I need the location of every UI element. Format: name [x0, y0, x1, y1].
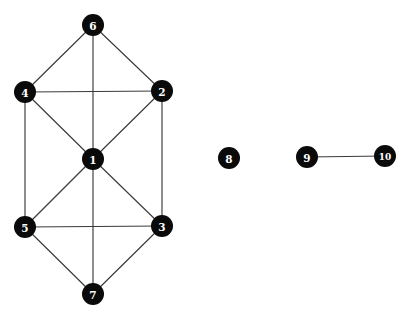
graph-edge-1-5: [25, 159, 93, 227]
graph-node-label-9: 9: [303, 152, 310, 164]
graph-edge-2-1: [93, 91, 162, 159]
graph-node-10[interactable]: 10: [374, 145, 396, 167]
node-layer: 12345678910: [14, 14, 396, 305]
graph-canvas: 12345678910: [0, 0, 409, 319]
graph-node-label-3: 3: [158, 221, 165, 233]
graph-node-2[interactable]: 2: [151, 80, 173, 102]
edge-layer: [25, 25, 385, 294]
graph-edge-5-3: [25, 226, 162, 227]
graph-node-label-6: 6: [89, 20, 96, 32]
graph-node-label-7: 7: [89, 289, 96, 301]
graph-node-label-4: 4: [21, 87, 28, 99]
graph-edge-1-3: [93, 159, 162, 226]
graph-edge-3-7: [93, 226, 162, 294]
graph-edge-4-2: [25, 91, 162, 92]
graph-node-1[interactable]: 1: [82, 148, 104, 170]
graph-node-label-5: 5: [21, 222, 28, 234]
graph-node-8[interactable]: 8: [218, 147, 240, 169]
graph-node-6[interactable]: 6: [82, 14, 104, 36]
graph-edge-5-7: [25, 227, 93, 294]
graph-edge-6-4: [25, 25, 93, 92]
graph-node-9[interactable]: 9: [296, 146, 318, 168]
graph-edge-9-10: [307, 156, 385, 157]
graph-node-label-2: 2: [158, 86, 165, 98]
graph-node-5[interactable]: 5: [14, 216, 36, 238]
graph-node-4[interactable]: 4: [14, 81, 36, 103]
graph-edge-4-1: [25, 92, 93, 159]
graph-edge-6-2: [93, 25, 162, 91]
graph-node-7[interactable]: 7: [82, 283, 104, 305]
graph-node-label-10: 10: [379, 152, 392, 162]
graph-node-label-8: 8: [225, 153, 232, 165]
graph-node-3[interactable]: 3: [151, 215, 173, 237]
graph-node-label-1: 1: [89, 154, 96, 166]
graph-diagram: 12345678910: [0, 0, 409, 319]
